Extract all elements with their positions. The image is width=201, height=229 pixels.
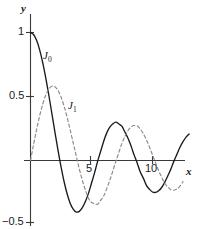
x-tick-label-5: 5 xyxy=(86,163,92,174)
curve-label-j0: J0 xyxy=(43,50,52,64)
y-tick-label-1: 1 xyxy=(18,26,24,37)
y-axis-label: y xyxy=(21,3,26,14)
curve-label-j1-sub: 1 xyxy=(73,105,77,114)
x-axis-label: x xyxy=(186,166,192,177)
curve-label-j1: J1 xyxy=(68,100,77,114)
curve-label-j0-sub: 0 xyxy=(48,55,52,64)
x-tick-label-10: 10 xyxy=(145,163,157,174)
plot-canvas xyxy=(0,0,201,229)
y-tick-label-minus-0point5: −0.5 xyxy=(2,216,24,227)
y-tick-label-0point5: 0.5 xyxy=(9,90,24,101)
bessel-function-plot: y x 1 0.5 −0.5 5 10 J0 J1 xyxy=(0,0,201,229)
curve-j1 xyxy=(31,86,184,204)
curve-j0 xyxy=(31,33,190,213)
